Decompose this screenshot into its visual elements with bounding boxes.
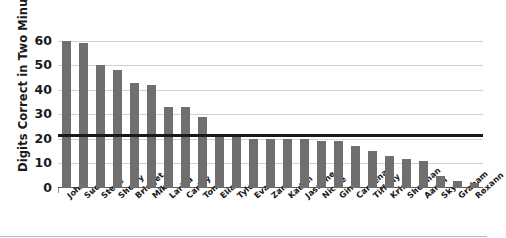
y-tick-label: 60 bbox=[24, 35, 52, 48]
bar bbox=[198, 117, 207, 188]
bar bbox=[334, 141, 343, 188]
bar bbox=[470, 183, 479, 188]
bar bbox=[232, 134, 241, 188]
x-axis-tick-labels: JohnSueSteveSherryBridgetMikeLarisaCarle… bbox=[58, 193, 483, 238]
bar bbox=[215, 134, 224, 188]
y-tick-label: 20 bbox=[24, 133, 52, 146]
plot-area bbox=[58, 36, 483, 188]
bar bbox=[266, 139, 275, 188]
y-tick-label: 40 bbox=[24, 84, 52, 97]
bar bbox=[385, 156, 394, 188]
bars-layer bbox=[58, 36, 483, 188]
bottom-divider bbox=[0, 236, 487, 237]
bar bbox=[79, 43, 88, 188]
bar bbox=[317, 141, 326, 188]
reference-line bbox=[58, 134, 483, 137]
bar bbox=[300, 139, 309, 188]
bar bbox=[419, 161, 428, 188]
bar bbox=[96, 65, 105, 188]
bar bbox=[283, 139, 292, 188]
y-tick-label: 0 bbox=[24, 182, 52, 195]
bar bbox=[62, 41, 71, 188]
y-tick-label: 10 bbox=[24, 157, 52, 170]
y-axis-tick-labels: 0102030405060 bbox=[24, 30, 52, 190]
bar bbox=[249, 139, 258, 188]
bar bbox=[181, 107, 190, 188]
y-tick-label: 30 bbox=[24, 108, 52, 121]
bar bbox=[113, 70, 122, 188]
bar bbox=[436, 176, 445, 188]
y-tick-label: 50 bbox=[24, 59, 52, 72]
bar bbox=[164, 107, 173, 188]
bar bbox=[402, 159, 411, 188]
bar bbox=[351, 146, 360, 188]
bar bbox=[368, 151, 377, 188]
bar bbox=[453, 181, 462, 188]
